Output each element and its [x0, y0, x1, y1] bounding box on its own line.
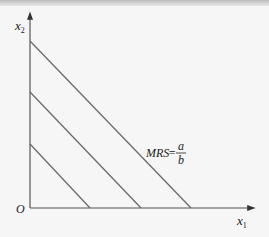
x-axis-label: x1 — [236, 213, 247, 230]
mrs-annotation: MRS = a b — [145, 139, 186, 167]
indifference-line-1 — [30, 144, 90, 208]
indifference-line-2 — [30, 92, 141, 208]
indifference-line-3 — [30, 41, 191, 208]
svg-text:=: = — [168, 146, 176, 160]
y-axis-label: x2 — [14, 18, 25, 35]
diagram-canvas: x2 x1 O MRS = a b — [0, 0, 269, 237]
origin-label: O — [16, 202, 25, 216]
svg-text:b: b — [178, 153, 184, 167]
svg-text:a: a — [178, 139, 184, 153]
svg-text:MRS: MRS — [145, 146, 169, 160]
